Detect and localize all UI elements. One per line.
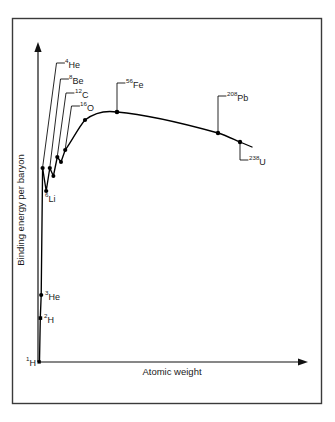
label-12C-symbol: C [82,90,89,100]
data-point-11B [51,174,55,178]
label-238U-symbol: U [259,157,266,167]
data-point-208Pb [216,131,220,135]
data-point-12C [55,155,59,159]
data-point-14N [59,160,63,164]
data-point-3He [39,293,43,297]
label-1H-symbol: H [29,358,36,368]
label-208Pb-symbol: Pb [237,93,248,103]
x-axis-title: Atomic weight [142,366,201,377]
data-point-8Be [48,166,52,170]
binding-energy-chart: Atomic weight Binding energy per baryon [0,0,335,422]
data-point-30P [83,118,87,122]
label-3He-symbol: He [48,292,60,302]
label-4He-symbol: He [68,60,80,70]
data-point-238U [238,140,242,144]
label-208Pb-mass: 208 [227,90,238,97]
figure-root: Atomic weight Binding energy per baryon [0,0,335,422]
label-2H-symbol: H [47,315,54,325]
label-8Be-symbol: Be [72,76,83,86]
label-16O-symbol: O [87,103,94,113]
figure-border [13,19,322,404]
label-6Li-symbol: Li [48,194,55,204]
data-point-4He [41,166,45,170]
y-axis-title: Binding energy per baryon [15,154,26,265]
data-point-2H [39,316,43,320]
data-point-16O [63,148,67,152]
label-56Fe-symbol: Fe [133,80,144,90]
data-point-1H [37,360,40,363]
label-238U-mass: 238 [249,154,260,161]
